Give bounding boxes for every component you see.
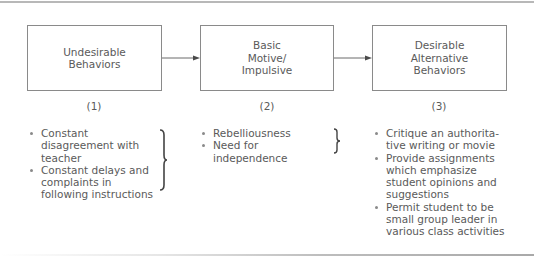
arrow-right-icon: [162, 52, 200, 64]
list-item: Constant delays and complaints in follow…: [30, 164, 160, 201]
top-rule: [0, 1, 534, 3]
step-number-1: (1): [74, 100, 114, 112]
bullet-icon: [375, 132, 378, 135]
list-item: Need for independence: [202, 139, 334, 164]
bullet-icon: [30, 132, 33, 135]
basic-motive-list: Rebelliousness Need for independence: [202, 127, 334, 164]
list-item: Constant disagreement with teacher: [30, 127, 160, 164]
list-item: Rebelliousness: [202, 127, 334, 139]
step-number-3: (3): [419, 100, 459, 112]
arrow-right-icon: [334, 52, 372, 64]
box-desirable-alternative-behaviors: Desirable Alternative Behaviors: [372, 25, 507, 91]
list-item: Permit student to be small group leader …: [375, 201, 505, 238]
step-number-2: (2): [247, 100, 287, 112]
right-brace-icon: [332, 128, 342, 154]
bullet-icon: [30, 169, 33, 172]
list-item: Critique an authorita-tive writing or mo…: [375, 127, 505, 152]
box-basic-motive: Basic Motive/ Impulsive: [200, 25, 334, 91]
bullet-icon: [375, 206, 378, 209]
undesirable-behaviors-list: Constant disagreement with teacher Const…: [30, 127, 160, 201]
box-undesirable-behaviors: Undesirable Behaviors: [27, 25, 162, 91]
bullet-icon: [202, 144, 205, 147]
bullet-icon: [375, 157, 378, 160]
bullet-icon: [202, 132, 205, 135]
right-brace-icon: [158, 129, 168, 191]
desirable-alternatives-list: Critique an authorita-tive writing or mo…: [375, 127, 505, 238]
list-item: Provide assignments which emphasize stud…: [375, 152, 505, 201]
